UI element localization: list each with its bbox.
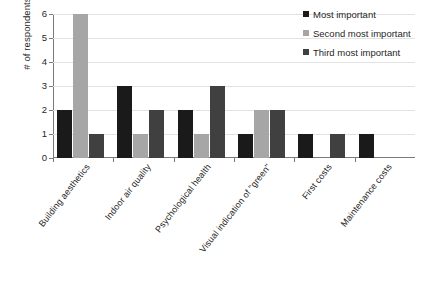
y-tick-label: 5 (42, 33, 47, 43)
bar (270, 110, 285, 158)
bar-group (174, 14, 234, 158)
legend-label: Second most important (313, 28, 411, 39)
y-tick-label: 0 (42, 153, 47, 163)
legend-swatch-icon (303, 30, 309, 36)
chart-legend: Most importantSecond most importantThird… (303, 9, 411, 58)
x-axis-category-labels: Building aestheticsIndoor air qualityPsy… (53, 160, 415, 284)
bar (298, 134, 313, 158)
legend-item[interactable]: Second most important (303, 28, 411, 39)
y-tick-label: 2 (42, 105, 47, 115)
x-axis-label: Psychological health (153, 162, 213, 234)
bar (133, 134, 148, 158)
legend-swatch-icon (303, 11, 309, 17)
x-axis-label: Visual indication of "green" (198, 162, 273, 255)
bar (238, 134, 253, 158)
bar (89, 134, 104, 158)
bar (359, 134, 374, 158)
legend-label: Most important (313, 9, 376, 20)
bar (73, 14, 88, 158)
y-tick-label: 4 (42, 57, 47, 67)
bar-group (234, 14, 294, 158)
bar (178, 110, 193, 158)
y-tick-label: 1 (42, 129, 47, 139)
y-tick-label: 3 (42, 81, 47, 91)
x-axis-label: Maintenance costs (339, 162, 394, 229)
bar (57, 110, 72, 158)
bar-group (53, 14, 113, 158)
x-axis-label: Indoor air quality (103, 162, 153, 222)
y-tick-label: 6 (42, 9, 47, 19)
bar (117, 86, 132, 158)
bar-chart: # of respondents 0123456 Building aesthe… (0, 0, 441, 288)
bar (149, 110, 164, 158)
bar-group (113, 14, 173, 158)
legend-label: Third most important (313, 47, 400, 58)
bar (254, 110, 269, 158)
legend-item[interactable]: Third most important (303, 47, 411, 58)
bar (210, 86, 225, 158)
x-axis-label: First costs (300, 162, 334, 201)
x-axis-label: Building aesthetics (37, 162, 92, 229)
legend-swatch-icon (303, 49, 309, 55)
bar (194, 134, 209, 158)
bar (330, 134, 345, 158)
legend-item[interactable]: Most important (303, 9, 411, 20)
y-axis-title: # of respondents (21, 0, 32, 104)
